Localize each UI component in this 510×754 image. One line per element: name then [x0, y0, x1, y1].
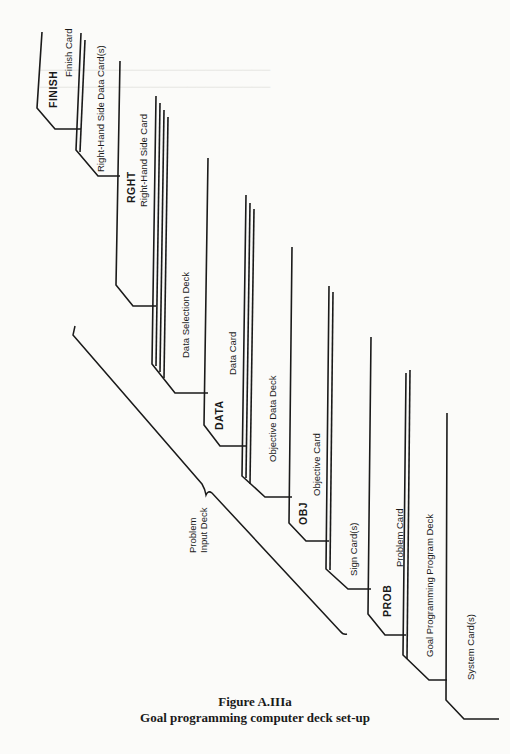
card-finish-code: FINISH	[47, 71, 59, 108]
card-data-label: Data Card	[227, 332, 238, 375]
card-data-outline	[204, 158, 246, 446]
card-sign-label: Sign Card(s)	[348, 523, 359, 576]
deck-objective-data-outline-3	[250, 209, 254, 484]
deck-goal-programming-label: Goal Programming Program Deck	[424, 514, 435, 657]
figure-title: Goal programming computer deck set-up	[0, 710, 510, 726]
deck-data-selection-label: Data Selection Deck	[180, 272, 191, 358]
card-obj-outline	[289, 247, 329, 541]
card-obj-label: Objective Card	[311, 433, 322, 496]
problem-input-deck-label-line2: Input Deck	[198, 508, 209, 553]
deck-data-selection-outline-2	[156, 103, 160, 366]
deck-data-selection-outline-3	[160, 110, 164, 372]
deck-objective-data-outline-2	[246, 203, 250, 478]
figure-page: ───────────────────────── ──────────────…	[0, 0, 510, 754]
card-finish-label: Finish Card	[63, 28, 74, 77]
deck-data-selection-outline-4	[164, 117, 168, 378]
figure-number: Figure A.IIIa	[0, 694, 510, 710]
card-system-label: System Card(s)	[465, 614, 476, 680]
card-rhs-data-label: Right-Hand Side Data Card(s)	[95, 45, 106, 172]
figure-caption: Figure A.IIIa Goal programming computer …	[0, 694, 510, 726]
deck-objective-data-label: Objective Data Deck	[267, 375, 278, 462]
deck-goal-programming-outline-2	[407, 370, 410, 659]
card-prob-label: Problem Card	[394, 508, 405, 567]
card-prob-code: PROB	[381, 585, 393, 617]
card-finish-outline	[37, 32, 81, 129]
problem-input-deck-label-line1: Problem	[187, 508, 198, 553]
card-data-code: DATA	[213, 400, 225, 430]
card-sign-outline-2	[330, 292, 333, 570]
problem-input-deck-bracket	[73, 326, 347, 634]
problem-input-deck-label: Problem Input Deck	[187, 508, 209, 553]
card-rght-code: RGHT	[125, 171, 137, 203]
card-rght-label: Right-Hand Side Card	[138, 114, 149, 207]
card-obj-code: OBJ	[297, 502, 309, 525]
